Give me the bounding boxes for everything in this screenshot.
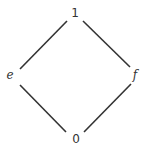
node-left-label: e bbox=[6, 68, 13, 82]
hasse-diagram: 1 e f 0 bbox=[0, 0, 148, 153]
node-bottom-label: 0 bbox=[72, 132, 80, 146]
edge-f-0 bbox=[84, 84, 131, 132]
edge-e-0 bbox=[20, 85, 66, 132]
node-top-label: 1 bbox=[71, 6, 79, 20]
edge-1-e bbox=[20, 21, 67, 69]
edge-1-f bbox=[83, 21, 130, 67]
node-right-label: f bbox=[132, 68, 140, 82]
